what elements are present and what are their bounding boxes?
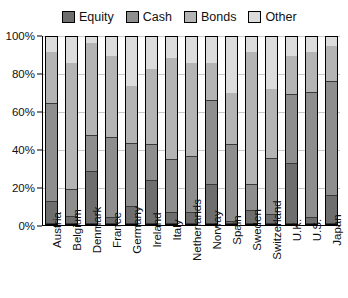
stacked-bar-chart: EquityCashBondsOther 0%20%40%60%80%100% …	[0, 0, 348, 298]
x-axis-tick-label: Switzerland	[271, 200, 283, 259]
bar-japan	[325, 36, 338, 225]
bar-us	[305, 36, 318, 225]
bar-segment-equity	[286, 164, 297, 224]
x-axis-tick-label: Denmark	[91, 207, 103, 254]
x-axis-category: France	[104, 228, 117, 298]
bar-segment-other	[246, 37, 257, 52]
x-axis-tick-label: Netherlands	[191, 199, 203, 261]
bar-segment-bonds	[266, 89, 277, 158]
bar-segment-bonds	[246, 52, 257, 185]
bar-segment-cash	[206, 101, 217, 185]
bar-segment-bonds	[226, 93, 237, 145]
bar-italy	[165, 36, 178, 225]
x-axis-category: Sweden	[245, 228, 258, 298]
bar-segment-bonds	[166, 58, 177, 161]
bar-segment-cash	[106, 138, 117, 218]
bar-segment-other	[66, 37, 77, 63]
x-axis-category: Austria	[44, 228, 57, 298]
bar-uk	[285, 36, 298, 225]
x-axis-tick-label: Italy	[171, 219, 183, 240]
bar-switzerland	[265, 36, 278, 225]
bar-segment-other	[186, 37, 197, 63]
bar-segment-cash	[306, 93, 317, 218]
bar-austria	[45, 36, 58, 225]
bar-denmark	[85, 36, 98, 225]
bar-segment-bonds	[66, 63, 77, 190]
x-axis-tick-label: France	[111, 212, 123, 248]
bar-segment-other	[326, 37, 337, 46]
bar-germany	[125, 36, 138, 225]
bar-segment-other	[286, 37, 297, 56]
x-axis-category: Belgium	[64, 228, 77, 298]
bar-segment-bonds	[46, 52, 57, 104]
x-axis-tick-label: Ireland	[151, 212, 163, 247]
bar-segment-bonds	[126, 86, 137, 144]
x-axis-category: U.K.	[285, 228, 298, 298]
chart-legend: EquityCashBondsOther	[62, 8, 346, 26]
x-axis-category: Denmark	[84, 228, 97, 298]
y-axis-tick-label: 40%	[12, 145, 35, 156]
bar-belgium	[65, 36, 78, 225]
bar-segment-other	[166, 37, 177, 58]
y-axis-tick-label: 100%	[6, 31, 35, 42]
bar-segment-cash	[126, 144, 137, 208]
bar-segment-bonds	[186, 63, 197, 157]
bar-segment-other	[206, 37, 217, 63]
bar-sweden	[245, 36, 258, 225]
x-axis-category: Japan	[325, 228, 338, 298]
legend-label: Cash	[143, 11, 172, 23]
bar-segment-cash	[246, 185, 257, 211]
x-axis-tick-label: Sweden	[251, 209, 263, 251]
x-axis-tick-label: Austria	[51, 212, 63, 248]
x-axis: AustriaBelgiumDenmarkFranceGermanyIrelan…	[42, 228, 340, 298]
bar-norway	[205, 36, 218, 225]
x-axis-category: U.S.	[305, 228, 318, 298]
x-axis-category: Norway	[205, 228, 218, 298]
bar-segment-cash	[166, 160, 177, 212]
x-axis-category: Italy	[164, 228, 177, 298]
x-axis-tick-label: Norway	[211, 211, 223, 250]
bar-segment-other	[266, 37, 277, 89]
y-axis-tick-label: 80%	[12, 69, 35, 80]
bar-segment-cash	[46, 104, 57, 201]
bar-segment-bonds	[86, 43, 97, 137]
legend-label: Equity	[79, 11, 114, 23]
legend-item-bonds: Bonds	[184, 11, 236, 23]
legend-swatch-bonds	[184, 11, 197, 23]
bar-segment-other	[46, 37, 57, 52]
x-axis-tick-label: Germany	[131, 206, 143, 253]
bar-series-container	[43, 36, 340, 225]
bar-netherlands	[185, 36, 198, 225]
bar-segment-bonds	[306, 52, 317, 93]
plot-area	[42, 36, 340, 226]
bar-segment-bonds	[286, 56, 297, 95]
legend-swatch-other	[248, 11, 261, 23]
x-axis-category: Germany	[124, 228, 137, 298]
x-axis-category: Switzerland	[265, 228, 278, 298]
bar-ireland	[145, 36, 158, 225]
x-axis-category: Netherlands	[184, 228, 197, 298]
legend-item-equity: Equity	[62, 11, 114, 23]
x-axis-category: Ireland	[144, 228, 157, 298]
bar-segment-other	[226, 37, 237, 93]
bar-segment-cash	[86, 136, 97, 172]
bar-segment-bonds	[146, 69, 157, 146]
bar-france	[105, 36, 118, 225]
bar-segment-bonds	[326, 46, 337, 82]
bar-segment-bonds	[206, 63, 217, 100]
bar-segment-bonds	[106, 56, 117, 138]
legend-item-other: Other	[248, 11, 296, 23]
x-axis-tick-label: Belgium	[71, 209, 83, 251]
x-axis-tick-label: U.K.	[291, 219, 303, 241]
x-axis-tick-label: Japan	[331, 214, 343, 245]
x-axis-category: Spain	[225, 228, 238, 298]
y-axis-tick-label: 0%	[18, 221, 35, 232]
legend-label: Other	[265, 11, 296, 23]
legend-swatch-equity	[62, 11, 75, 23]
bar-segment-other	[126, 37, 137, 86]
legend-swatch-cash	[126, 11, 139, 23]
bar-segment-cash	[326, 82, 337, 196]
legend-item-cash: Cash	[126, 11, 172, 23]
bar-spain	[225, 36, 238, 225]
y-axis-tick-label: 20%	[12, 183, 35, 194]
